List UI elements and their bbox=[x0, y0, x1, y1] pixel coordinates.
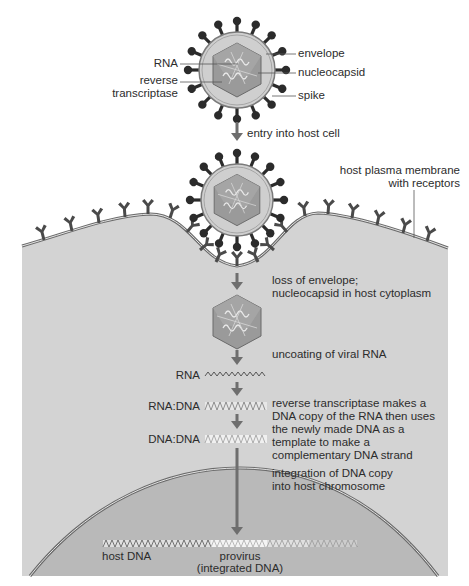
label-rna: RNA bbox=[130, 57, 178, 70]
label-rt-3: the newly made DNA as a bbox=[272, 423, 404, 436]
host-chromosome bbox=[103, 540, 357, 547]
label-strand-rna: RNA bbox=[140, 369, 200, 382]
dna-dna-duplex bbox=[205, 435, 267, 443]
rna-dna-hybrid bbox=[205, 402, 267, 410]
label-strand-dna-dna: DNA:DNA bbox=[140, 433, 200, 446]
label-rt-2: DNA copy of the RNA then uses bbox=[272, 410, 435, 423]
label-provirus-2: (integrated DNA) bbox=[180, 562, 300, 575]
label-rt-5: complementary DNA strand bbox=[272, 449, 413, 462]
label-strand-rna-dna: RNA:DNA bbox=[140, 400, 200, 413]
label-integration-2: into host chromosome bbox=[272, 480, 385, 493]
label-integration-1: integration of DNA copy bbox=[272, 467, 393, 480]
label-rt-4: template to make a bbox=[272, 436, 370, 449]
label-reverse-transcriptase-1: reverse bbox=[100, 74, 178, 87]
label-reverse-transcriptase-2: transcriptase bbox=[100, 87, 178, 100]
label-host-dna: host DNA bbox=[102, 550, 151, 563]
label-loss-2: nucleocapsid in host cytoplasm bbox=[272, 287, 431, 300]
arrow-entry bbox=[231, 122, 243, 141]
virion-free bbox=[184, 17, 290, 123]
label-membrane-1: host plasma membrane bbox=[300, 164, 460, 177]
label-nucleocapsid: nucleocapsid bbox=[298, 66, 365, 79]
label-uncoating: uncoating of viral RNA bbox=[272, 348, 386, 361]
label-envelope: envelope bbox=[298, 47, 345, 60]
label-rt-1: reverse transcriptase makes a bbox=[272, 397, 426, 410]
label-entry: entry into host cell bbox=[247, 127, 340, 140]
label-membrane-2: with receptors bbox=[300, 177, 460, 190]
label-spike: spike bbox=[298, 89, 325, 102]
label-loss-1: loss of envelope; bbox=[272, 274, 358, 287]
virion-binding bbox=[186, 149, 288, 251]
